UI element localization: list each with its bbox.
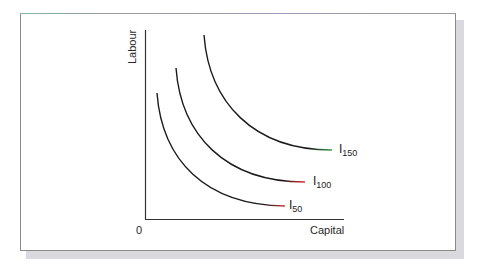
isoquant-i150 bbox=[204, 35, 332, 150]
label-i100-sub: 100 bbox=[316, 180, 331, 190]
label-i50-sub: 50 bbox=[292, 204, 302, 214]
label-i150: I150 bbox=[339, 142, 357, 158]
x-axis-label: Capital bbox=[310, 224, 344, 236]
isoquant-i100 bbox=[176, 68, 305, 182]
isoquant-plot bbox=[0, 0, 478, 269]
isoquant-i50 bbox=[157, 93, 285, 206]
y-axis-label: Labour bbox=[126, 30, 138, 64]
label-i100: I100 bbox=[313, 174, 331, 190]
origin-label: 0 bbox=[136, 224, 142, 236]
label-i50: I50 bbox=[289, 198, 302, 214]
label-i150-sub: 150 bbox=[342, 148, 357, 158]
